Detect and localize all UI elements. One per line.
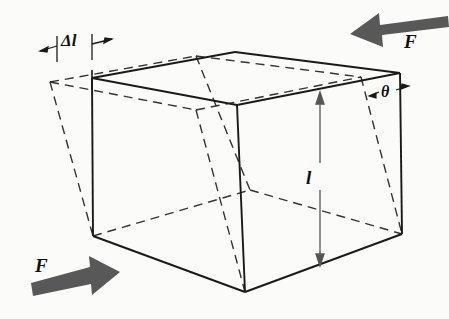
length-dimension	[316, 92, 324, 266]
shear-angle-label: θ	[381, 83, 389, 101]
original-top-edge-front-left	[50, 82, 196, 110]
deformed-top-edge-back-left	[92, 52, 235, 78]
deformed-top-edge-back-right	[235, 52, 400, 73]
original-bottom-edge-back-left	[93, 190, 250, 236]
arrow-left-icon	[350, 13, 449, 47]
theta-arrowhead-left	[369, 93, 376, 98]
force-label-bottom-left: F	[35, 255, 48, 277]
theta-arrowhead-right	[401, 84, 409, 89]
deformed-edge-front-vertical	[237, 105, 245, 292]
original-edge-left-vertical	[50, 82, 93, 236]
deformed-bottom-edge-front-right	[245, 234, 402, 292]
original-bottom-edge-back-right	[250, 190, 402, 234]
original-edge-back-vertical	[196, 56, 250, 190]
shear-deformation-figure: F F Δl l θ	[0, 0, 449, 319]
original-top-edge-front-right	[196, 77, 361, 110]
force-label-top-right: F	[404, 31, 417, 53]
delta-l-arrowhead-left	[40, 47, 48, 52]
original-cube-dashed	[50, 56, 402, 292]
length-label: l	[306, 167, 311, 189]
deformed-bottom-edge-front-left	[93, 236, 245, 292]
length-arrowhead-top	[316, 92, 324, 104]
delta-length-label: Δl	[61, 31, 76, 51]
deformed-top-edge-front-left	[92, 78, 237, 105]
original-top-edge-right	[196, 56, 361, 77]
original-top-edge-left	[50, 56, 196, 82]
force-arrow-top-right	[350, 13, 449, 47]
deformed-edge-left-vertical	[92, 78, 93, 236]
deformed-cube-solid	[92, 52, 402, 292]
deformed-edge-right-vertical	[400, 73, 402, 234]
delta-l-arrowhead-right	[104, 38, 112, 43]
